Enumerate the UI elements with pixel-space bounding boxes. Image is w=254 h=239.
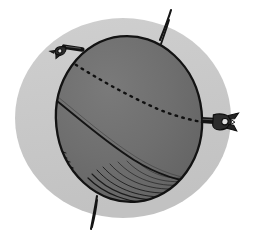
- figure-root: Sphere with clamps and great-circle arcs: [0, 0, 254, 239]
- clamp-right-stem-highlight: [203, 119, 213, 120]
- sphere-illustration: Sphere with clamps and great-circle arcs: [0, 0, 254, 239]
- clamp-right-notch: [231, 120, 235, 124]
- clamp-right-pivot-hole: [222, 118, 229, 125]
